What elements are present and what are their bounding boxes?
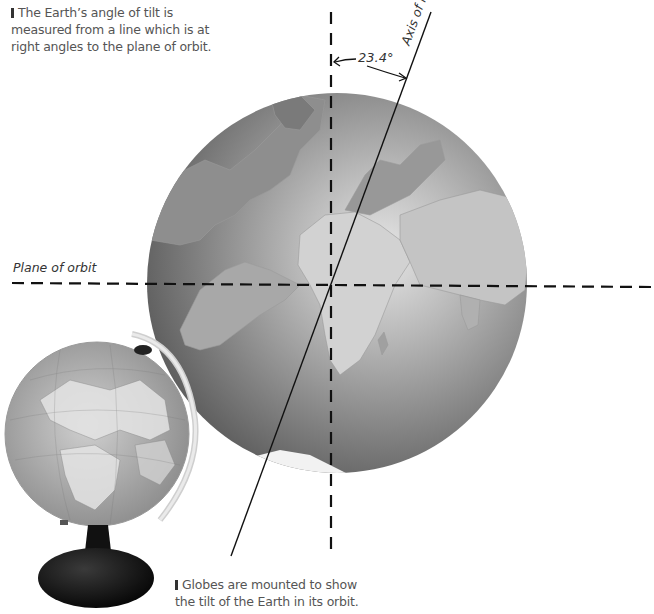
bottom-caption-line1: Globes are mounted to show [182,577,357,592]
bottom-caption-line2: the tilt of the Earth in its orbit. [175,593,359,610]
top-caption-line3: right angles to the plane of orbit. [11,38,211,55]
caption-bullet-icon [11,8,14,18]
top-caption-line1: The Earth’s angle of tilt is [18,5,173,20]
caption-bullet-icon [175,580,178,590]
plane-of-orbit-label: Plane of orbit [13,260,96,275]
earth-tilt-diagram [0,0,654,614]
top-caption-line2: measured from a line which is at [11,21,211,38]
bottom-caption: Globes are mounted to show the tilt of t… [175,576,359,610]
desk-globe [5,334,196,608]
tilt-angle-label: 23.4° [358,50,393,65]
top-caption: The Earth’s angle of tilt is measured fr… [11,4,211,55]
